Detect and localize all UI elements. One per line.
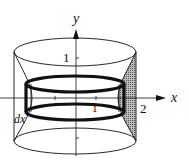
dx-label: dx bbox=[14, 112, 26, 126]
y-axis-label: y bbox=[71, 11, 80, 26]
y-axis-arrow-icon bbox=[73, 29, 79, 39]
bottom-ellipse bbox=[14, 128, 136, 154]
shell-bottom-ellipse bbox=[26, 104, 124, 120]
x-axis-arrow-icon bbox=[156, 95, 166, 101]
x-axis-label: x bbox=[170, 90, 178, 105]
x-tick-label-2: 2 bbox=[140, 101, 147, 116]
shaded-region bbox=[118, 52, 136, 141]
left-profile-curve bbox=[14, 52, 32, 141]
shell-method-diagram: y x 1 1 2 dx bbox=[0, 0, 189, 168]
x-tick-label-1: 1 bbox=[92, 102, 98, 114]
shell-top-ellipse bbox=[26, 76, 124, 92]
top-ellipse bbox=[14, 38, 136, 66]
y-tick-label-1: 1 bbox=[63, 50, 70, 65]
